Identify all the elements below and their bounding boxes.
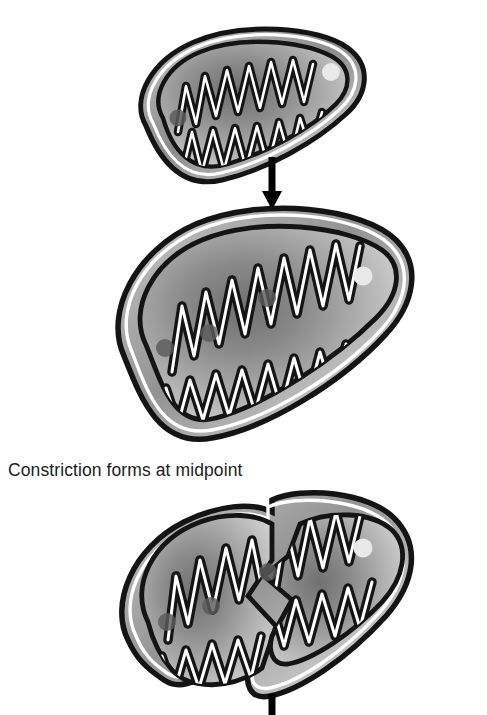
- nucleoid-dark-stage3-2: [202, 597, 220, 615]
- granule-light-stage2: [354, 267, 373, 286]
- figure-root: Constriction forms at midpoint: [0, 0, 487, 715]
- arrow-shaft-1: [269, 157, 276, 193]
- arrow-stage3-to-next: [269, 694, 276, 715]
- mitochondria-diagram-svg: [0, 0, 487, 715]
- stage-3-constricted-mitochondrion: [122, 493, 412, 697]
- stage-1-intact-mitochondrion: [141, 29, 365, 182]
- nucleoid-dark-stage3-1: [158, 613, 176, 631]
- constriction-caption: Constriction forms at midpoint: [8, 459, 242, 481]
- granule-light-stage3: [354, 539, 373, 558]
- nucleoid-dark-stage2-3: [258, 289, 276, 307]
- nucleoid-dark-stage1-1: [170, 110, 187, 127]
- granule-light-stage1: [322, 63, 340, 81]
- stage-2-enlarged-mitochondrion: [118, 208, 412, 439]
- nucleoid-dark-stage2-1: [156, 339, 174, 357]
- nucleoid-dark-stage3-3: [259, 563, 277, 581]
- arrow-shaft-2: [269, 694, 276, 715]
- nucleoid-dark-stage2-2: [200, 324, 218, 342]
